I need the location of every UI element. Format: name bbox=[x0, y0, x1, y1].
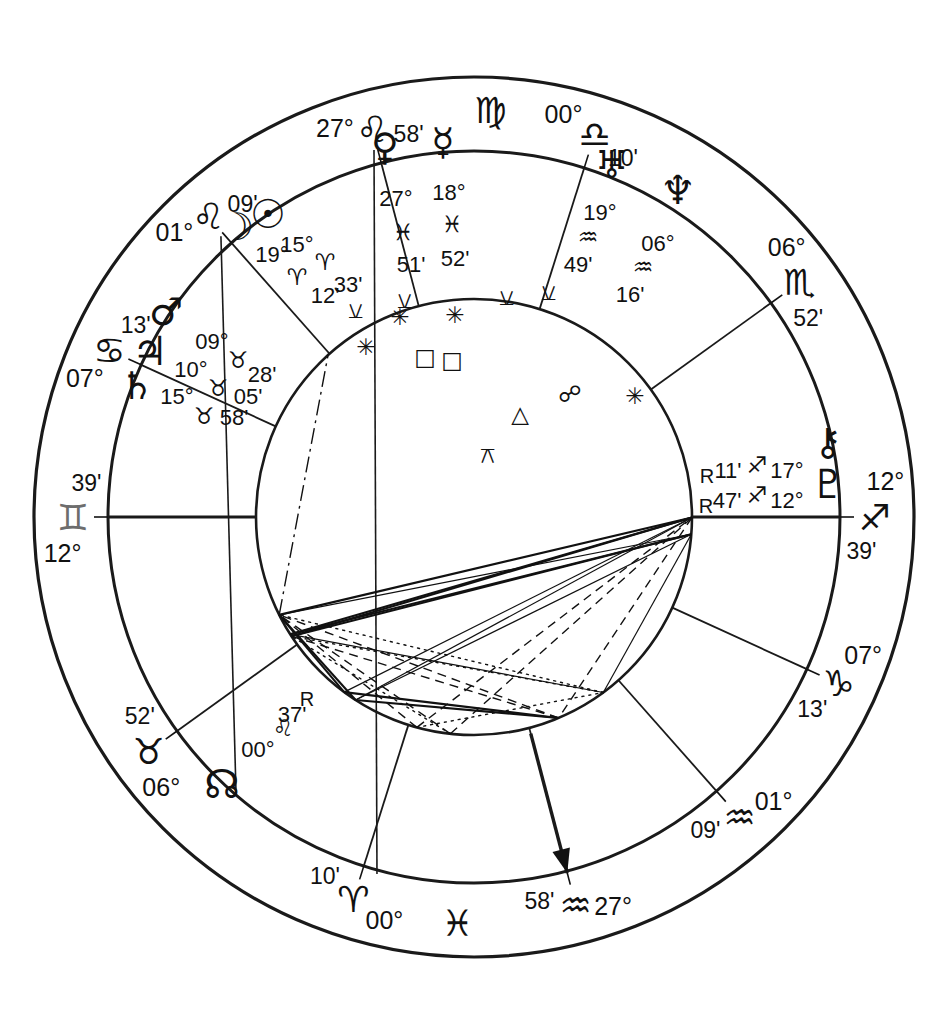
planet-degree-north-node: 00° bbox=[241, 737, 274, 762]
aspect-marker-opposition-9: ☍ bbox=[558, 381, 581, 407]
planet-degree-moon: 19° bbox=[255, 242, 288, 267]
cusp-label-6-degree: 06° bbox=[768, 233, 806, 261]
cusp-tick-12 bbox=[166, 731, 177, 739]
planet-minute-mercury: 52' bbox=[441, 246, 470, 271]
aspect-marker-glyphs: ⚺⚺⚺⚺✳✳✳□□☍✳△⚻ bbox=[348, 279, 645, 468]
planet-sign-glyph-chiron: ♐ bbox=[747, 452, 768, 478]
planet-glyph-venus: ♀ bbox=[371, 125, 399, 169]
planet-degree-neptune: 06° bbox=[641, 231, 674, 256]
aspect-jupiter-pluto bbox=[290, 517, 692, 634]
planet-glyph-north-node: ☊ bbox=[204, 761, 240, 807]
planet-sign-glyph-jupiter: ♉ bbox=[208, 375, 229, 401]
cusp-tick-11 bbox=[360, 866, 364, 879]
cusp-label-10-sign-glyph: ♒ bbox=[559, 885, 591, 926]
planet-degree-venus: 27° bbox=[379, 186, 412, 211]
aspect-marker-sextile-10: ✳ bbox=[625, 383, 644, 409]
cusp-tick-6 bbox=[771, 295, 782, 303]
planet-retrograde-pluto: R bbox=[699, 495, 713, 517]
cusp-label-9-minute: 09' bbox=[690, 817, 720, 843]
cusp-label-11-minute: 10' bbox=[310, 863, 340, 889]
aspect-mercury-pluto bbox=[450, 517, 692, 733]
cusp-label-4-degree: 27° bbox=[316, 114, 354, 142]
outer-sign-glyph-virgo: ♍ bbox=[475, 90, 507, 131]
cusp-label-11-degree: 00° bbox=[366, 906, 404, 934]
planet-sign-glyph-uranus: ♒ bbox=[578, 224, 599, 250]
planet-glyph-uranus: ♅ bbox=[595, 143, 629, 187]
aspect-marker-square-7: □ bbox=[414, 344, 436, 370]
cusp-label-7-degree: 12° bbox=[867, 467, 905, 495]
venus-pointer-line bbox=[374, 150, 377, 874]
north-node-pointer-line bbox=[221, 236, 236, 792]
house-cusp-line-11 bbox=[364, 725, 409, 866]
cusp-label-12-sign-glyph: ♉ bbox=[133, 731, 165, 772]
planet-minute-neptune: 16' bbox=[616, 282, 645, 307]
cusp-label-8-minute: 13' bbox=[797, 696, 827, 722]
planet-glyph-moon: ☽ bbox=[220, 205, 254, 249]
cusp-label-6-sign-glyph: ♏ bbox=[783, 262, 815, 303]
house-cusp-line-9 bbox=[618, 680, 716, 791]
planet-sign-glyph-sun: ♈ bbox=[315, 249, 336, 275]
cusp-tick-8 bbox=[807, 669, 820, 675]
planet-minute-chiron: 11' bbox=[714, 458, 741, 483]
aspect-marker-quincunx-12: ⚻ bbox=[480, 442, 495, 468]
aspect-marker-sextile-5: ✳ bbox=[445, 302, 464, 328]
cusp-tick-5 bbox=[584, 155, 588, 168]
aspect-marker-trine-11: △ bbox=[511, 401, 529, 427]
planet-glyph-saturn: ♄ bbox=[120, 364, 154, 408]
cusp-label-7-minute: 39' bbox=[847, 538, 877, 564]
planet-sign-glyph-saturn: ♉ bbox=[194, 403, 215, 429]
planet-minute-uranus: 49' bbox=[564, 252, 593, 277]
planet-degree-pluto: 12° bbox=[770, 488, 803, 513]
planet-sign-glyph-venus: ♓ bbox=[393, 219, 414, 245]
outer-sign-glyph-pisces: ♓ bbox=[441, 903, 473, 944]
planet-minute-venus: 51' bbox=[397, 252, 426, 277]
planet-retrograde-chiron: R bbox=[700, 465, 714, 487]
planet-degree-mars: 09° bbox=[195, 329, 228, 354]
aspect-sun-chiron bbox=[356, 534, 692, 700]
planet-glyph-pluto: ♇ bbox=[810, 461, 846, 507]
cusp-label-5-degree: 00° bbox=[545, 100, 583, 128]
aspect-marker-sextile-6: ✳ bbox=[356, 334, 375, 360]
planet-glyph-mercury: ☿ bbox=[431, 120, 454, 164]
aspect-lines-group bbox=[279, 355, 692, 734]
aspect-uranus-saturn bbox=[279, 615, 558, 718]
cusp-label-3-degree: 01° bbox=[156, 218, 194, 246]
aspect-sun-pluto bbox=[356, 517, 692, 700]
cusp-label-9-degree: 01° bbox=[755, 787, 793, 815]
aspect-saturn-pluto bbox=[279, 517, 692, 614]
cusp-tick-10 bbox=[567, 871, 571, 885]
aspect-saturn-node bbox=[279, 355, 328, 615]
planet-minute-pluto: 47' bbox=[713, 488, 742, 513]
planet-glyph-sun: ☉ bbox=[250, 191, 286, 237]
planet-minute-saturn: 58' bbox=[220, 405, 249, 430]
house-inner-circle bbox=[256, 299, 692, 735]
aspect-saturn-chiron bbox=[279, 534, 691, 615]
aspect-marker-sextile-4: ✳ bbox=[390, 304, 409, 330]
planet-retrograde-north-node: R bbox=[300, 688, 314, 710]
planet-sign-glyph-neptune: ♒ bbox=[633, 254, 654, 280]
planet-glyph-neptune: ♆ bbox=[660, 167, 696, 213]
cusp-label-12-degree: 06° bbox=[142, 773, 180, 801]
planet-degree-mercury: 18° bbox=[432, 180, 465, 205]
astrology-chart-wheel: 12°♊39'07°♋13'01°♌09'27°♌58'00°♎10'06°♏5… bbox=[0, 0, 948, 1012]
aspect-marker-semisextile-0: ⚺ bbox=[348, 297, 363, 323]
aspect-marker-square-8: □ bbox=[441, 347, 463, 373]
mc-arrow-group bbox=[531, 734, 570, 873]
cusp-label-10-minute: 58' bbox=[524, 888, 554, 914]
planet-sign-glyph-mercury: ♓ bbox=[442, 211, 463, 237]
planet-degree-jupiter: 10° bbox=[174, 357, 207, 382]
cusp-label-11-sign-glyph: ♈ bbox=[337, 879, 369, 920]
cusp-label-1-minute: 39' bbox=[71, 470, 101, 496]
mc-arrow-head bbox=[552, 847, 569, 872]
cusp-label-10-degree: 27° bbox=[594, 892, 632, 920]
cusp-label-9-sign-glyph: ♒ bbox=[724, 797, 756, 838]
planet-glyph-chiron: ⚷ bbox=[814, 420, 842, 464]
cusp-label-6-minute: 52' bbox=[793, 305, 823, 331]
aspect-marker-semisextile-2: ⚺ bbox=[499, 284, 514, 310]
cusp-label-12-minute: 52' bbox=[125, 703, 155, 729]
planet-sign-glyph-pluto: ♐ bbox=[747, 482, 768, 508]
cusp-label-1-sign-glyph: ♊ bbox=[57, 497, 89, 538]
planet-minute-moon: 12' bbox=[311, 283, 340, 308]
planet-sign-glyph-moon: ♈ bbox=[287, 264, 308, 290]
cusp-label-7-sign-glyph: ♐ bbox=[859, 497, 891, 538]
